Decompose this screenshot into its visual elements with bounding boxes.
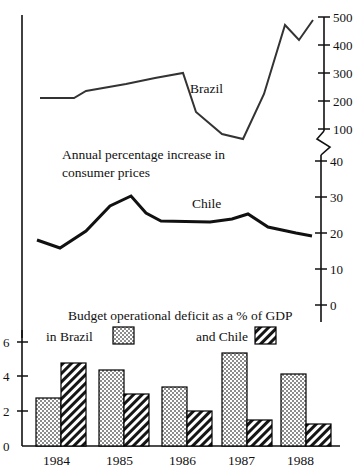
right-axis-tick-0: 0: [330, 298, 337, 313]
right-axis-tick-10: 10: [330, 262, 343, 277]
bar-brazil-1984: [36, 398, 61, 446]
bar-axis-tick-6: 6: [3, 335, 10, 350]
bar-chile-1988: [306, 424, 331, 446]
bar-axis-tick-2: 2: [3, 404, 10, 419]
bar-brazil-1986: [162, 387, 187, 446]
bar-chart-legend-title: Budget operational deficit as a % of GDP: [68, 308, 293, 323]
line-chart-right-axis: [317, 17, 330, 322]
right-axis-tick-200: 200: [333, 94, 353, 109]
brazil-series-label: Brazil: [190, 81, 223, 96]
legend-swatch-brazil: [113, 327, 134, 344]
bar-chile-1985: [124, 394, 149, 446]
bar-axis-tick-4: 4: [3, 369, 10, 384]
chile-series-label: Chile: [192, 196, 221, 211]
right-axis-tick-100: 100: [333, 122, 353, 137]
line-chart-caption-line2: consumer prices: [62, 165, 150, 180]
bar-brazil-1987: [222, 353, 247, 446]
year-label-1986: 1986: [169, 453, 196, 468]
bar-chart-legend-brazil-label: in Brazil: [46, 329, 93, 344]
figure-root: 500 400 300 200 100 40 30 20 10 0 Brazil…: [0, 0, 360, 476]
year-label-1985: 1985: [106, 453, 133, 468]
bar-chile-1987: [247, 420, 272, 446]
brazil-line-series: [40, 20, 313, 139]
bar-brazil-1988: [281, 374, 306, 446]
legend-swatch-chile: [255, 327, 276, 344]
chile-line-series: [37, 196, 312, 248]
bar-chile-1984: [61, 363, 86, 446]
year-label-1987: 1987: [228, 453, 255, 468]
right-axis-tick-400: 400: [333, 38, 353, 53]
line-chart-panel: 500 400 300 200 100 40 30 20 10 0 Brazil…: [22, 10, 353, 338]
right-axis-tick-20: 20: [330, 226, 343, 241]
bar-axis-ticks: 6 4 2 0: [3, 335, 28, 454]
bar-chart-panel: Budget operational deficit as a % of GDP…: [3, 308, 340, 468]
line-chart-caption-line1: Annual percentage increase in: [62, 147, 225, 162]
right-axis-tick-300: 300: [333, 66, 353, 81]
bar-brazil-1985: [99, 370, 124, 446]
year-label-1984: 1984: [43, 453, 70, 468]
right-axis-tick-40: 40: [330, 154, 343, 169]
bar-chile-1986: [187, 411, 212, 446]
year-label-1988: 1988: [287, 453, 314, 468]
bar-chart-legend-chile-label: and Chile: [196, 329, 248, 344]
right-axis-tick-500: 500: [333, 10, 353, 25]
bar-axis-tick-0: 0: [3, 439, 10, 454]
right-axis-tick-30: 30: [330, 190, 343, 205]
